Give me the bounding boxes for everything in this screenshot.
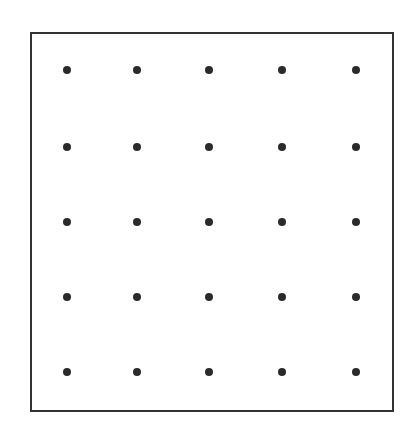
dot [205, 66, 213, 74]
dot [133, 66, 141, 74]
dot [278, 293, 286, 301]
dot [133, 293, 141, 301]
dot [133, 143, 141, 151]
dot [352, 143, 360, 151]
dot [278, 66, 286, 74]
dot [205, 143, 213, 151]
dot [352, 293, 360, 301]
dot [205, 368, 213, 376]
dot [205, 293, 213, 301]
dot [63, 143, 71, 151]
dot [278, 218, 286, 226]
dot [63, 218, 71, 226]
dot [205, 218, 213, 226]
dot [278, 368, 286, 376]
dot [133, 218, 141, 226]
dot [63, 293, 71, 301]
dot [133, 368, 141, 376]
dot [352, 368, 360, 376]
dot [352, 66, 360, 74]
dot [278, 143, 286, 151]
dot [63, 368, 71, 376]
dot [352, 218, 360, 226]
dot [63, 66, 71, 74]
